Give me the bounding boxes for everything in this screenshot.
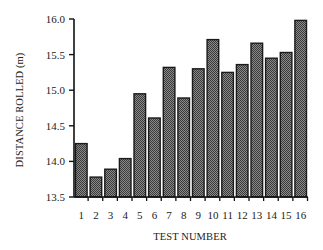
bar-test-4	[119, 159, 131, 197]
bar-test-16	[295, 20, 307, 197]
x-tick-label: 9	[196, 209, 202, 221]
bar-test-10	[207, 40, 219, 197]
x-tick-label: 11	[222, 209, 233, 221]
y-tick-label: 15.5	[46, 49, 66, 61]
x-tick-label: 5	[137, 209, 143, 221]
x-tick-label: 10	[207, 209, 219, 221]
x-tick-label: 3	[108, 209, 114, 221]
y-tick-label: 15.0	[46, 84, 66, 96]
bars-group	[76, 20, 307, 197]
bar-test-6	[149, 118, 161, 197]
y-tick-label: 14.0	[46, 155, 66, 167]
y-axis: 13.514.014.515.015.516.0	[46, 13, 74, 203]
y-axis-title: DISTANCE ROLLED (m)	[14, 52, 26, 167]
y-tick-label: 13.5	[46, 191, 66, 203]
bar-test-3	[105, 169, 117, 197]
bar-test-7	[163, 67, 175, 197]
x-tick-label: 2	[93, 209, 99, 221]
x-tick-label: 13	[251, 209, 263, 221]
bar-test-11	[222, 72, 234, 197]
x-tick-label: 14	[266, 209, 278, 221]
bar-test-8	[178, 98, 190, 197]
x-axis-title: TEST NUMBER	[153, 231, 227, 242]
bar-chart: 13.514.014.515.015.516.0 123456789101112…	[0, 0, 323, 250]
x-axis: 12345678910111213141516	[74, 197, 308, 221]
bar-test-1	[76, 144, 88, 197]
x-tick-label: 16	[295, 209, 307, 221]
y-tick-label: 14.5	[46, 120, 66, 132]
bar-test-2	[90, 177, 102, 197]
x-tick-label: 7	[166, 209, 172, 221]
bar-test-12	[236, 65, 248, 197]
y-tick-label: 16.0	[46, 13, 66, 25]
x-tick-label: 1	[79, 209, 85, 221]
bar-test-9	[193, 69, 205, 197]
bar-test-5	[134, 94, 146, 197]
bar-test-13	[251, 43, 263, 197]
x-tick-label: 4	[122, 209, 128, 221]
x-tick-label: 12	[237, 209, 248, 221]
bar-test-15	[280, 53, 292, 198]
x-tick-label: 6	[152, 209, 158, 221]
bar-test-14	[266, 58, 278, 197]
x-tick-label: 15	[281, 209, 293, 221]
x-tick-label: 8	[181, 209, 187, 221]
